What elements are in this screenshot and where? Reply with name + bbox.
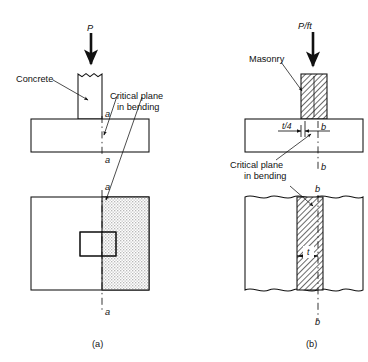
section-mark-a-3: a	[105, 182, 110, 192]
masonry-wall-plan	[297, 197, 323, 290]
panel-a: a a a a Concrete P Critical plane in ben…	[16, 23, 163, 349]
section-mark-b-1: b	[321, 122, 326, 132]
section-mark-a-2: a	[105, 155, 110, 165]
label-critical-plane-b-line2: in bending	[244, 171, 286, 181]
figure-canvas: a a a a Concrete P Critical plane in ben…	[0, 0, 368, 362]
section-mark-b-2: b	[321, 162, 326, 172]
engineering-figure: a a a a Concrete P Critical plane in ben…	[0, 0, 368, 362]
caption-a: (a)	[92, 339, 103, 349]
label-critical-plane-a-line2: in bending	[117, 102, 159, 112]
label-critical-plane-a-line1: Critical plane	[110, 91, 163, 101]
masonry-footing-elevation	[245, 119, 363, 152]
panel-b: b b b b t/4 t P/ft Masonry Critical plan…	[230, 21, 363, 349]
masonry-leader	[281, 62, 302, 91]
label-load-p: P	[87, 23, 94, 33]
label-load-p-per-ft: P/ft	[298, 21, 312, 31]
concrete-column-plan	[80, 232, 102, 256]
section-mark-a-4: a	[105, 307, 110, 317]
concrete-footing-elevation	[31, 119, 149, 152]
caption-b: (b)	[306, 339, 317, 349]
label-concrete: Concrete	[16, 74, 53, 84]
label-masonry: Masonry	[249, 54, 285, 64]
column-footprint-shaded-part	[102, 232, 116, 256]
dimension-label-t-over-4: t/4	[282, 121, 292, 131]
label-critical-plane-b-line1: Critical plane	[230, 160, 283, 170]
section-mark-a-1: a	[105, 109, 110, 119]
section-mark-b-3: b	[315, 184, 320, 194]
section-mark-b-4: b	[315, 317, 320, 327]
